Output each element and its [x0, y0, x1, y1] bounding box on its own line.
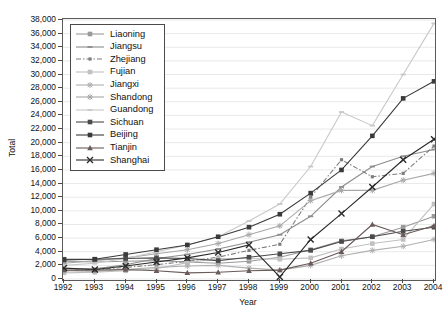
x-tick-mark: [63, 279, 64, 283]
legend-item-jiangxi[interactable]: Jiangxi: [75, 78, 159, 91]
x-tick-label: 1994: [115, 283, 134, 291]
legend-swatch-shanghai: [75, 154, 105, 166]
legend-item-shanghai[interactable]: Shanghai: [75, 154, 159, 167]
y-tick-label: 8,000: [0, 219, 56, 227]
legend-item-sichuan[interactable]: Sichuan: [75, 116, 159, 129]
y-tick-mark: [58, 223, 62, 224]
legend-swatch-zhejiang: [75, 53, 105, 65]
legend-swatch-guandong: [75, 104, 105, 116]
legend-item-zhejiang[interactable]: Zhejiang: [75, 53, 159, 66]
legend-label: Shanghai: [110, 156, 149, 165]
legend-swatch-beijing: [75, 129, 105, 141]
y-tick-label: 28,000: [0, 83, 56, 91]
y-tick-label: 10,000: [0, 206, 56, 214]
x-tick-mark: [433, 279, 434, 283]
y-tick-mark: [58, 278, 62, 279]
y-tick-mark: [58, 155, 62, 156]
x-tick-label: 1996: [177, 283, 196, 291]
legend-swatch-tianjin: [75, 142, 105, 154]
y-tick-label: 12,000: [0, 192, 56, 200]
y-tick-label: 4,000: [0, 247, 56, 255]
y-tick-label: 26,000: [0, 97, 56, 105]
x-tick-label: 2003: [393, 283, 412, 291]
legend-swatch-jiangxi: [75, 79, 105, 91]
legend-item-beijing[interactable]: Beijing: [75, 129, 159, 142]
legend-swatch-fujian: [75, 66, 105, 78]
y-tick-mark: [58, 101, 62, 102]
legend-label: Sichuan: [110, 118, 144, 127]
x-tick-label: 1993: [85, 283, 104, 291]
x-tick-mark: [156, 279, 157, 283]
x-tick-mark: [186, 279, 187, 283]
legend-item-tianjin[interactable]: Tianjin: [75, 141, 159, 154]
x-tick-mark: [94, 279, 95, 283]
x-tick-mark: [217, 279, 218, 283]
y-tick-mark: [58, 183, 62, 184]
x-tick-mark: [341, 279, 342, 283]
x-tick-mark: [310, 279, 311, 283]
x-tick-label: 1999: [270, 283, 289, 291]
legend-item-liaoning[interactable]: Liaoning: [75, 28, 159, 41]
x-tick-mark: [279, 279, 280, 283]
y-tick-mark: [58, 33, 62, 34]
x-axis-label: Year: [62, 297, 434, 307]
x-tick-label: 1995: [146, 283, 165, 291]
y-tick-mark: [58, 196, 62, 197]
x-tick-label: 2002: [362, 283, 381, 291]
legend-item-jiangsu[interactable]: Jiangsu: [75, 41, 159, 54]
y-tick-label: 32,000: [0, 56, 56, 64]
y-tick-mark: [58, 264, 62, 265]
y-tick-label: 30,000: [0, 69, 56, 77]
x-tick-mark: [125, 279, 126, 283]
y-tick-label: 6,000: [0, 233, 56, 241]
legend-label: Beijing: [110, 130, 138, 139]
y-tick-label: 2,000: [0, 260, 56, 268]
y-tick-mark: [58, 114, 62, 115]
x-tick-label: 1997: [208, 283, 227, 291]
y-tick-mark: [58, 210, 62, 211]
y-tick-mark: [58, 74, 62, 75]
x-tick-label: 1998: [239, 283, 258, 291]
y-tick-label: 14,000: [0, 178, 56, 186]
y-tick-label: 36,000: [0, 28, 56, 36]
y-tick-mark: [58, 169, 62, 170]
y-tick-mark: [58, 19, 62, 20]
y-tick-mark: [58, 142, 62, 143]
series-sichuan: [63, 225, 435, 263]
y-tick-label: 34,000: [0, 42, 56, 50]
series-fujian: [63, 202, 435, 275]
y-tick-label: 0: [0, 274, 56, 282]
legend-item-fujian[interactable]: Fujian: [75, 66, 159, 79]
legend-label: Fujian: [110, 67, 135, 76]
legend-label: Shandong: [110, 93, 152, 102]
legend-item-shandong[interactable]: Shandong: [75, 91, 159, 104]
y-tick-mark: [58, 60, 62, 61]
y-tick-mark: [58, 87, 62, 88]
x-tick-label: 2004: [424, 283, 443, 291]
x-tick-mark: [371, 279, 372, 283]
y-axis-label: Total: [7, 128, 17, 168]
legend-swatch-sichuan: [75, 116, 105, 128]
x-tick-label: 2001: [331, 283, 350, 291]
legend-label: Guandong: [110, 105, 153, 114]
chart-legend: LiaoningJiangsuZhejiangFujianJiangxiShan…: [70, 24, 165, 171]
x-tick-mark: [248, 279, 249, 283]
y-tick-mark: [58, 128, 62, 129]
legend-label: Zhejiang: [110, 55, 146, 64]
legend-item-guandong[interactable]: Guandong: [75, 104, 159, 117]
x-tick-mark: [402, 279, 403, 283]
x-tick-label: 1992: [54, 283, 73, 291]
y-tick-label: 24,000: [0, 110, 56, 118]
legend-label: Liaoning: [110, 30, 145, 39]
legend-swatch-shandong: [75, 91, 105, 103]
legend-label: Tianjin: [110, 143, 137, 152]
y-tick-mark: [58, 46, 62, 47]
legend-label: Jiangsu: [110, 42, 142, 51]
chart-container: 02,0004,0006,0008,00010,00012,00014,0001…: [0, 0, 446, 328]
x-tick-label: 2000: [300, 283, 319, 291]
y-tick-mark: [58, 237, 62, 238]
y-tick-mark: [58, 251, 62, 252]
legend-swatch-jiangsu: [75, 41, 105, 53]
legend-swatch-liaoning: [75, 28, 105, 40]
y-tick-label: 38,000: [0, 15, 56, 23]
